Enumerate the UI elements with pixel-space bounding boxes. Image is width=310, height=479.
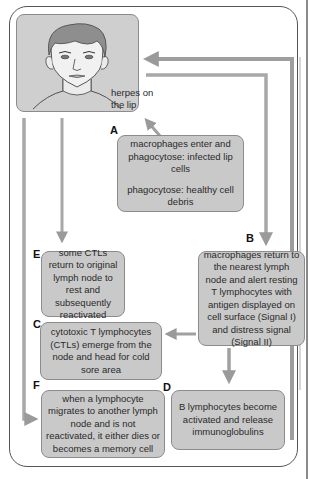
node-d-box: B lymphocytes become activated and relea… (171, 390, 285, 450)
node-b-text: macrophages return to the nearest lymph … (202, 249, 301, 349)
node-f-text: when a lymphocyte migrates to another ly… (45, 393, 161, 456)
label-a: A (110, 124, 118, 136)
node-b-box: macrophages return to the nearest lymph … (198, 251, 305, 346)
node-a-text-1: macrophages enter and phagocytose: infec… (121, 138, 240, 176)
node-c-text: cytotoxic T lymphocytes (CTLs) emerge fr… (44, 326, 158, 376)
arrow-face-to-f (24, 118, 32, 419)
node-e-box: some CTLs return to original lymph node … (41, 251, 125, 317)
label-b: B (246, 232, 254, 244)
node-e-text: some CTLs return to original lymph node … (45, 247, 121, 322)
node-d-text: B lymphocytes become activated and relea… (175, 401, 281, 439)
node-f-box: when a lymphocyte migrates to another ly… (41, 390, 165, 458)
arrow-a-to-face (148, 122, 160, 136)
label-f: F (33, 379, 40, 391)
label-d: D (163, 381, 171, 393)
node-c-box: cytotoxic T lymphocytes (CTLs) emerge fr… (40, 322, 162, 380)
label-e: E (33, 248, 40, 260)
node-a-box: macrophages enter and phagocytose: infec… (117, 135, 244, 212)
node-a-text-2: phagocytose: healthy cell debris (121, 184, 240, 209)
